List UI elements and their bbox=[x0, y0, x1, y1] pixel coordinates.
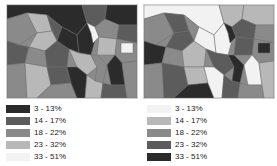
legend-swatch bbox=[147, 153, 171, 161]
legend-swatch bbox=[6, 117, 30, 125]
legend-label: 3 - 13% bbox=[175, 104, 203, 114]
legend-swatch bbox=[147, 129, 171, 137]
left-choropleth-map bbox=[6, 4, 138, 99]
legend-label: 33 - 51% bbox=[34, 152, 66, 162]
legend-label: 18 - 22% bbox=[34, 128, 66, 138]
legend-swatch bbox=[6, 153, 30, 161]
right-map-regions bbox=[144, 5, 274, 98]
right-choropleth-map bbox=[143, 4, 275, 99]
legend-swatch bbox=[147, 117, 171, 125]
legend-swatch bbox=[6, 129, 30, 137]
legend-swatch bbox=[6, 105, 30, 113]
left-map-regions bbox=[7, 5, 137, 98]
legend-label: 14 - 17% bbox=[34, 116, 66, 126]
legend-swatch bbox=[147, 105, 171, 113]
legend-label: 23 - 32% bbox=[34, 140, 66, 150]
legend-swatch bbox=[147, 141, 171, 149]
legend-label: 14 - 17% bbox=[175, 116, 207, 126]
legend-label: 23 - 32% bbox=[175, 140, 207, 150]
legend-swatch bbox=[6, 141, 30, 149]
legend-label: 18 - 22% bbox=[175, 128, 207, 138]
legend-label: 3 - 13% bbox=[34, 104, 62, 114]
legend-label: 33 - 51% bbox=[175, 152, 207, 162]
